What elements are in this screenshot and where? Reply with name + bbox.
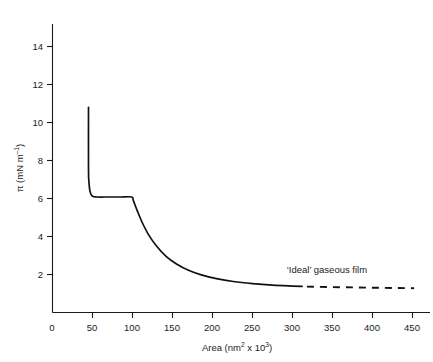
x-axis-title: Area (nm2 x 103)	[202, 341, 272, 353]
chart-plot-area: 2 4 6 8 10 12 14 0 50 100 150 200 250	[0, 0, 433, 362]
x-tick-label-350: 350	[324, 322, 340, 333]
x-tick-label-150: 150	[164, 322, 180, 333]
x-axis-title-mid: x 10	[245, 342, 266, 353]
x-tick-label-100: 100	[124, 322, 140, 333]
y-tick-label-14: 14	[32, 41, 43, 52]
chart-figure: 2 4 6 8 10 12 14 0 50 100 150 200 250	[0, 0, 433, 362]
isotherm-curve-solid	[88, 107, 302, 286]
y-tick-label-2: 2	[38, 269, 43, 280]
x-tick-label-50: 50	[87, 322, 98, 333]
x-axis-tick-labels: 0 50 100 150 200 250 300 350 400 450	[49, 322, 420, 333]
svg-text:Area (nm2 x 103): Area (nm2 x 103)	[202, 341, 272, 353]
x-tick-label-250: 250	[244, 322, 260, 333]
x-tick-label-300: 300	[284, 322, 300, 333]
y-tick-label-10: 10	[32, 117, 43, 128]
y-tick-label-8: 8	[38, 155, 43, 166]
x-tick-label-0: 0	[49, 322, 54, 333]
ideal-gaseous-film-curve-dashed	[307, 287, 414, 289]
x-axis-title-prefix: Area (nm	[202, 342, 241, 353]
x-axis-ticks	[93, 313, 413, 319]
y-axis-ticks	[47, 47, 53, 275]
x-tick-label-400: 400	[364, 322, 380, 333]
y-tick-label-12: 12	[32, 79, 43, 90]
y-axis-title-suffix: )	[14, 144, 25, 147]
svg-text:π (mN m–1): π (mN m–1)	[13, 144, 25, 192]
y-axis-title: π (mN m–1)	[13, 144, 25, 192]
ideal-gaseous-film-annotation: ‘Ideal’ gaseous film	[287, 264, 368, 275]
x-tick-label-450: 450	[404, 322, 420, 333]
y-tick-label-6: 6	[38, 193, 43, 204]
x-axis-title-suffix: )	[269, 342, 272, 353]
y-tick-label-4: 4	[38, 231, 43, 242]
y-axis-tick-labels: 2 4 6 8 10 12 14	[32, 41, 43, 280]
x-tick-label-200: 200	[204, 322, 220, 333]
y-axis-title-prefix: π (mN m	[14, 154, 25, 192]
